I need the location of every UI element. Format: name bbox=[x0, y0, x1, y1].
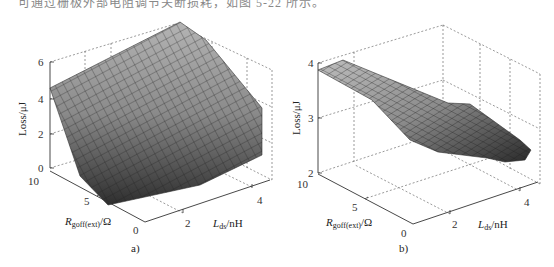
y-axis-label-a: Rgoff(ext)/Ω bbox=[64, 215, 111, 229]
z-tick-a-0: 0 bbox=[38, 162, 44, 174]
z-tick-b-4: 4 bbox=[308, 57, 314, 69]
figure-canvas: 6 4 2 0 Loss/μJ 10 5 0 Rgoff(ext)/Ω 2 4 … bbox=[0, 0, 554, 267]
z-axis-label-b: Loss/μJ bbox=[290, 100, 302, 135]
x-tick-a-2: 2 bbox=[185, 217, 191, 229]
chart-panel-a: 6 4 2 0 Loss/μJ 10 5 0 Rgoff(ext)/Ω 2 4 … bbox=[16, 22, 272, 255]
z-tick-b-2: 2 bbox=[308, 167, 314, 179]
y-tick-a-10: 10 bbox=[28, 175, 40, 187]
z-tick-a-4: 4 bbox=[38, 93, 44, 105]
z-tick-a-6: 6 bbox=[38, 56, 44, 68]
x-tick-b-4: 4 bbox=[524, 196, 530, 208]
y-tick-a-5: 5 bbox=[84, 195, 90, 207]
caption-b: b) bbox=[399, 242, 409, 255]
x-axis-label-b: Lds/nH bbox=[477, 218, 508, 232]
y-tick-a-0: 0 bbox=[133, 224, 139, 236]
x-axis-label-a: Lds/nH bbox=[212, 217, 243, 231]
y-tick-b-5: 5 bbox=[352, 201, 358, 213]
chart-panel-b: 4 3 2 Loss/μJ 10 5 0 Rgoff(ext)/Ω 2 4 Ld… bbox=[290, 25, 540, 255]
z-tick-a-2: 2 bbox=[38, 128, 44, 140]
z-tick-b-3: 3 bbox=[308, 112, 314, 124]
x-tick-a-4: 4 bbox=[257, 194, 263, 206]
y-tick-b-0: 0 bbox=[401, 227, 407, 239]
x-tick-b-2: 2 bbox=[452, 218, 458, 230]
y-tick-b-10: 10 bbox=[297, 178, 309, 190]
caption-a: a) bbox=[131, 242, 140, 255]
z-axis-label-a: Loss/μJ bbox=[16, 101, 28, 136]
y-axis-label-b: Rgoff(ext)/Ω bbox=[325, 216, 372, 230]
